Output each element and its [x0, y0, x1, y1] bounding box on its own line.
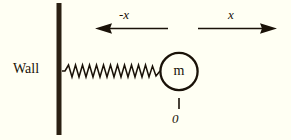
- diagram-canvas: [0, 0, 291, 140]
- negative-x-arrow-head: [95, 23, 112, 34]
- positive-x-arrow: [198, 23, 277, 34]
- positive-x-axis-label: x: [228, 8, 234, 21]
- negative-x-arrow: [95, 23, 168, 34]
- negative-x-axis-label: -x: [119, 8, 129, 21]
- origin-label: 0: [172, 112, 179, 125]
- mass-label: m: [160, 64, 198, 78]
- spring-mass-diagram: Wall m -x x 0: [0, 0, 291, 140]
- wall-label: Wall: [13, 62, 39, 76]
- spring-coil: [62, 65, 160, 77]
- positive-x-arrow-head: [260, 23, 277, 34]
- wall-bar: [57, 3, 62, 135]
